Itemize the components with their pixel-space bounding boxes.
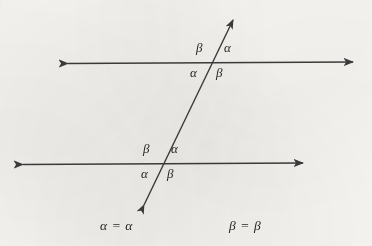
angle-label-upper-top-right: α (224, 41, 231, 54)
angle-label-lower-top-left: β (143, 142, 149, 155)
angle-label-upper-top-left: β (196, 41, 202, 54)
geometry-canvas (0, 0, 372, 246)
geometry-figure: βααββααβ α = αβ = β (0, 0, 372, 246)
caption-beta-equality: β = β (229, 219, 261, 233)
angle-label-lower-bottom-left: α (141, 167, 148, 180)
angle-label-lower-top-right: α (171, 142, 178, 155)
angle-label-upper-bottom-right: β (216, 66, 222, 79)
caption-alpha-equality: α = α (100, 219, 133, 233)
angle-label-lower-bottom-right: β (167, 167, 173, 180)
transversal-line (144, 20, 233, 205)
upper-parallel-line (68, 62, 353, 64)
angle-label-upper-bottom-left: α (190, 66, 197, 79)
